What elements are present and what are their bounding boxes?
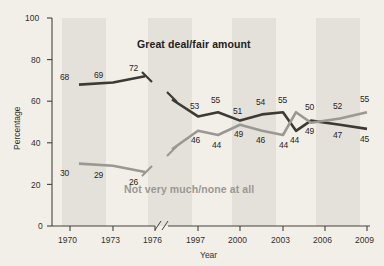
data-label: 55: [211, 95, 220, 105]
y-axis-ticks: [47, 18, 52, 226]
data-label: 46: [191, 135, 200, 145]
data-label: 68: [60, 72, 69, 82]
data-label: 55: [360, 94, 369, 104]
data-label: 49: [305, 126, 314, 136]
x-tick-label: 1970: [58, 235, 77, 245]
y-tick-label: 100: [25, 13, 39, 23]
x-tick-label: 2009: [355, 235, 374, 245]
x-tick-label: 1997: [186, 235, 205, 245]
data-label: 54: [256, 97, 265, 107]
x-axis-ticks: [70, 226, 367, 231]
y-axis-title: Percentage: [12, 107, 22, 150]
data-label: 49: [234, 129, 243, 139]
data-label: 52: [333, 101, 342, 111]
x-tick-label: 2006: [313, 235, 332, 245]
x-axis-title: Year: [200, 250, 217, 260]
x-tick-label: 2000: [228, 235, 247, 245]
data-label: 51: [233, 106, 242, 116]
data-label: 50: [305, 102, 314, 112]
y-tick-label: 20: [31, 180, 40, 190]
data-label: 69: [94, 70, 103, 80]
data-label: 44: [290, 135, 299, 145]
chart-container: Percentage 100 80 60 40 20 0 1970 1973 1…: [0, 0, 384, 266]
series-label-great-deal: Great deal/fair amount: [137, 38, 251, 50]
y-tick-label: 60: [31, 96, 40, 106]
y-tick-label: 80: [31, 55, 40, 65]
data-label: 53: [190, 101, 199, 111]
data-label: 55: [278, 95, 287, 105]
data-label: 44: [212, 140, 221, 150]
data-label: 45: [360, 134, 369, 144]
data-label: 29: [94, 170, 103, 180]
data-label: 46: [256, 135, 265, 145]
x-tick-label: 1976: [143, 235, 162, 245]
x-tick-label: 2003: [271, 235, 290, 245]
data-label: 47: [333, 130, 342, 140]
data-label: 72: [129, 63, 138, 73]
series-label-not-very-much: Not very much/none at all: [124, 183, 254, 195]
x-tick-label: 1973: [101, 235, 120, 245]
y-tick-label: 0: [38, 221, 43, 231]
y-tick-label: 40: [31, 138, 40, 148]
data-label: 30: [60, 168, 69, 178]
data-label: 44: [279, 140, 288, 150]
data-label: 26: [129, 177, 138, 187]
band: [62, 18, 106, 226]
